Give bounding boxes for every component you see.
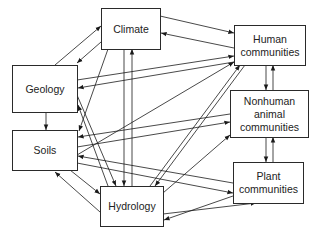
- node-geology-label: Geology: [25, 83, 64, 96]
- edge-geology-climate: [55, 26, 101, 65]
- node-hydrology: Hydrology: [100, 186, 164, 227]
- edge-hydrology-plant: [163, 203, 256, 214]
- edge-human-climate: [161, 33, 234, 48]
- node-nonhuman-label-1: Nonhuman: [244, 95, 295, 108]
- node-plant-label-2: communities: [239, 183, 298, 196]
- edge-human-geology: [78, 62, 234, 88]
- node-soils: Soils: [12, 130, 78, 171]
- node-plant-label-1: Plant: [257, 170, 281, 183]
- node-nonhuman-label-3: communities: [240, 121, 299, 134]
- node-soils-label: Soils: [34, 144, 57, 157]
- node-human-communities: Human communities: [234, 25, 306, 66]
- node-climate-label: Climate: [113, 23, 149, 36]
- edge-plant-hydrology: [164, 196, 233, 220]
- edge-hydrology-human: [150, 65, 240, 186]
- edge-climate-geology: [77, 42, 101, 63]
- edge-hydrology-nonhuman: [163, 135, 230, 193]
- node-geology: Geology: [12, 65, 78, 113]
- node-nonhuman-label-2: animal: [254, 108, 285, 121]
- node-climate: Climate: [101, 8, 161, 50]
- edge-climate-human: [160, 16, 234, 33]
- node-nonhuman-animal-communities: Nonhuman animal communities: [230, 90, 309, 138]
- edge-geology-hydrology: [77, 95, 116, 186]
- edge-soils-hydrology: [70, 170, 100, 194]
- node-human-label-1: Human: [253, 33, 287, 46]
- node-hydrology-label: Hydrology: [108, 200, 155, 213]
- edge-soils-human: [77, 62, 234, 155]
- node-plant-communities: Plant communities: [233, 162, 304, 204]
- edge-hydrology-soils: [55, 172, 100, 212]
- node-human-label-2: communities: [241, 46, 300, 59]
